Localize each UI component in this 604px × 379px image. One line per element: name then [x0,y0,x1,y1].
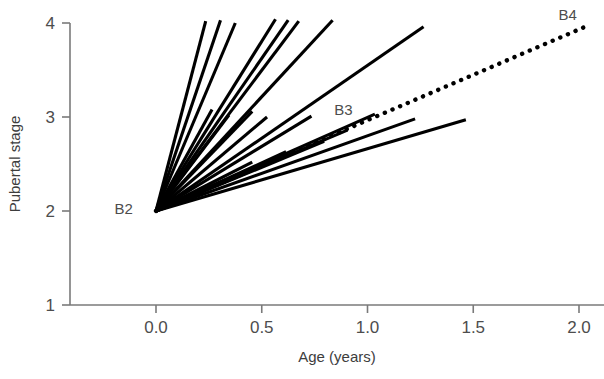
x-axis-title: Age (years) [298,348,376,365]
stage-annotation-b3: B3 [334,101,352,118]
y-tick-label: 3 [46,108,55,127]
chart-canvas: 1234 0.00.51.01.52.0 B2B3B4 Age (years) … [0,0,604,379]
x-tick-label: 1.0 [356,318,380,337]
y-tick-label: 4 [46,14,55,33]
x-tick-label: 0.5 [250,318,274,337]
x-tick-label: 2.0 [567,318,591,337]
pubertal-stage-chart: 1234 0.00.51.01.52.0 B2B3B4 Age (years) … [0,0,604,379]
y-tick-label: 1 [46,296,55,315]
x-tick-label: 1.5 [461,318,485,337]
y-axis-title: Pubertal stage [6,116,23,213]
x-tick-label: 0.0 [144,318,168,337]
stage-annotation-b4: B4 [559,6,577,23]
y-tick-label: 2 [46,202,55,221]
stage-annotation-b2: B2 [114,200,132,217]
